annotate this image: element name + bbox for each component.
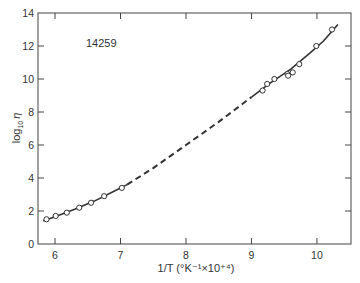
data-point-marker — [260, 88, 265, 93]
dashed-fit-line — [127, 97, 251, 185]
y-tick-label: 4 — [28, 172, 34, 184]
viscosity-chart: 67891002468101214 14259 log10η 1/T (°K⁻¹… — [0, 0, 360, 283]
data-point-marker — [286, 73, 291, 78]
fit-curves — [43, 25, 338, 221]
data-point-marker — [329, 27, 334, 32]
svg-text:log10η: log10η — [10, 113, 24, 144]
data-point-marker — [88, 200, 93, 205]
data-points — [44, 27, 335, 222]
data-point-marker — [290, 70, 295, 75]
y-axis-title: log10η — [10, 113, 24, 144]
data-point-marker — [53, 213, 58, 218]
y-axis-title-eta: η — [10, 113, 22, 119]
y-tick-label: 14 — [22, 7, 34, 19]
y-tick-label: 6 — [28, 139, 34, 151]
x-axis-title: 1/T (°K⁻¹×10⁺⁴) — [158, 262, 235, 274]
x-tick-label: 8 — [183, 249, 189, 261]
plot-frame — [38, 13, 351, 244]
data-point-marker — [64, 210, 69, 215]
y-tick-label: 10 — [22, 73, 34, 85]
data-point-marker — [297, 62, 302, 67]
x-tick-label: 9 — [249, 249, 255, 261]
data-point-marker — [44, 217, 49, 222]
y-axis-title-sub: 10 — [17, 121, 24, 129]
data-point-marker — [102, 194, 107, 199]
y-tick-label: 12 — [22, 40, 34, 52]
solid-fit-line — [252, 25, 338, 98]
sample-annotation: 14259 — [86, 37, 117, 49]
y-tick-label: 8 — [28, 106, 34, 118]
data-point-marker — [272, 76, 277, 81]
y-tick-label: 0 — [28, 238, 34, 250]
x-tick-label: 10 — [311, 249, 323, 261]
y-tick-label: 2 — [28, 205, 34, 217]
axis-ticks: 67891002468101214 — [22, 7, 351, 261]
y-axis-title-log: log — [10, 129, 22, 144]
data-point-marker — [77, 205, 82, 210]
data-point-marker — [119, 185, 124, 190]
x-tick-label: 6 — [52, 249, 58, 261]
data-point-marker — [265, 81, 270, 86]
data-point-marker — [314, 43, 319, 48]
x-tick-label: 7 — [118, 249, 124, 261]
plot-border — [38, 13, 351, 244]
